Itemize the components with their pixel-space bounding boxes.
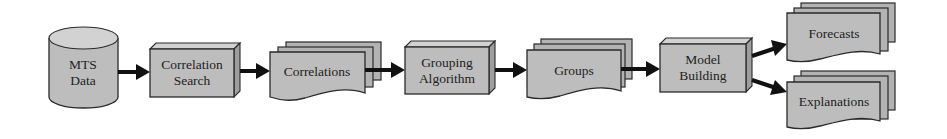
grouping-algorithm-label: Grouping Algorithm (419, 55, 475, 87)
mts-data-label-line2: Data (69, 73, 97, 89)
arrow-mts-to-correlation-search (118, 64, 150, 80)
mts-data-label: MTS Data (69, 57, 97, 89)
explanations-label: Explanations (799, 94, 870, 110)
correlation-search-label-line2: Search (161, 73, 222, 89)
model-building-label-line1: Model (679, 52, 726, 68)
mts-data-label-line1: MTS (69, 57, 97, 73)
grouping-algorithm-label-line1: Grouping (419, 55, 475, 71)
arrow-grouping-to-groups (495, 62, 527, 78)
grouping-algorithm-label-line2: Algorithm (419, 71, 475, 87)
correlation-search-label: Correlation Search (161, 57, 222, 89)
model-building-label: Model Building (679, 52, 726, 84)
correlations-label: Correlations (284, 64, 351, 80)
groups-label: Groups (554, 63, 594, 79)
arrow-correlation-search-to-correlations (240, 63, 270, 79)
arrow-model-to-forecasts (752, 40, 787, 56)
model-building-label-line2: Building (679, 68, 726, 84)
correlation-search-label-line1: Correlation (161, 57, 222, 73)
forecasts-label: Forecasts (809, 26, 860, 42)
arrow-model-to-explanations (752, 80, 787, 95)
